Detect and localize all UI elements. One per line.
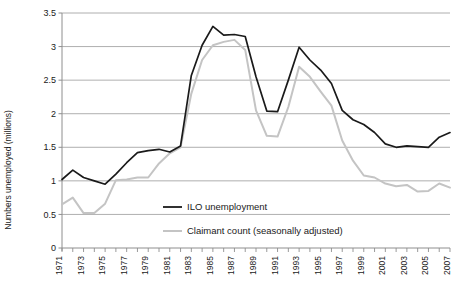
y-tick-label: 2.5 (43, 75, 56, 85)
unemployment-line-chart: 00.511.522.533.5 19711973197519771979198… (0, 0, 453, 294)
y-axis-tick-labels: 00.511.522.533.5 (43, 8, 56, 253)
x-tick-label: 1989 (248, 256, 258, 275)
x-tick-label: 1975 (97, 256, 107, 275)
x-tick-label: 1991 (270, 256, 280, 275)
x-tick-label: 1981 (162, 256, 172, 275)
y-axis-tick-marks (59, 13, 63, 248)
x-tick-label: 1997 (334, 256, 344, 275)
chart-legend: ILO unemploymentClaimant count (seasonal… (163, 201, 343, 236)
x-tick-label: 2001 (377, 256, 387, 275)
x-tick-label: 1987 (226, 256, 236, 275)
x-axis-tick-labels: 1971197319751977197919811983198519871989… (54, 256, 452, 275)
y-tick-label: 1 (51, 176, 56, 186)
chart-container: 00.511.522.533.5 19711973197519771979198… (0, 0, 453, 294)
x-tick-label: 2005 (420, 256, 430, 275)
x-tick-label: 1977 (119, 256, 129, 275)
x-tick-label: 1993 (291, 256, 301, 275)
x-tick-label: 1973 (76, 256, 86, 275)
y-tick-label: 2 (51, 109, 56, 119)
x-tick-label: 2003 (399, 256, 409, 275)
legend-label: ILO unemployment (187, 201, 268, 212)
legend-label: Claimant count (seasonally adjusted) (187, 225, 343, 236)
x-tick-label: 2007 (442, 256, 452, 275)
series-line-claimant-count (62, 40, 450, 213)
x-tick-label: 1979 (140, 256, 150, 275)
y-tick-label: 3.5 (43, 8, 56, 18)
y-tick-label: 0.5 (43, 210, 56, 220)
x-tick-label: 1985 (205, 256, 215, 275)
x-tick-label: 1999 (356, 256, 366, 275)
y-tick-label: 0 (51, 243, 56, 253)
y-axis-title: Numbers unemployed (millions) (3, 110, 13, 230)
x-axis-ticks (62, 248, 450, 252)
y-tick-label: 1.5 (43, 142, 56, 152)
y-tick-label: 3 (51, 42, 56, 52)
x-tick-label: 1995 (313, 256, 323, 275)
x-tick-label: 1983 (183, 256, 193, 275)
x-tick-label: 1971 (54, 256, 64, 275)
data-series-group (62, 26, 450, 213)
